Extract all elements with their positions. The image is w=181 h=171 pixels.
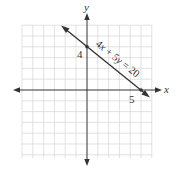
y-intercept-point [85, 45, 89, 49]
y-axis-down-arrow-icon [84, 159, 89, 166]
x-axis-right-arrow-icon [155, 87, 162, 92]
y-axis-up-arrow-icon [84, 13, 89, 20]
x-axis-label: x [163, 83, 169, 95]
x-intercept-point [139, 88, 143, 92]
y-axis-label: y [83, 1, 89, 13]
y-intercept-label: 4 [77, 48, 83, 60]
coordinate-plane: y x 4 5 4x + 5y = 20 [0, 0, 181, 171]
x-intercept-label: 5 [129, 93, 135, 105]
x-axis-left-arrow-icon [13, 87, 20, 92]
